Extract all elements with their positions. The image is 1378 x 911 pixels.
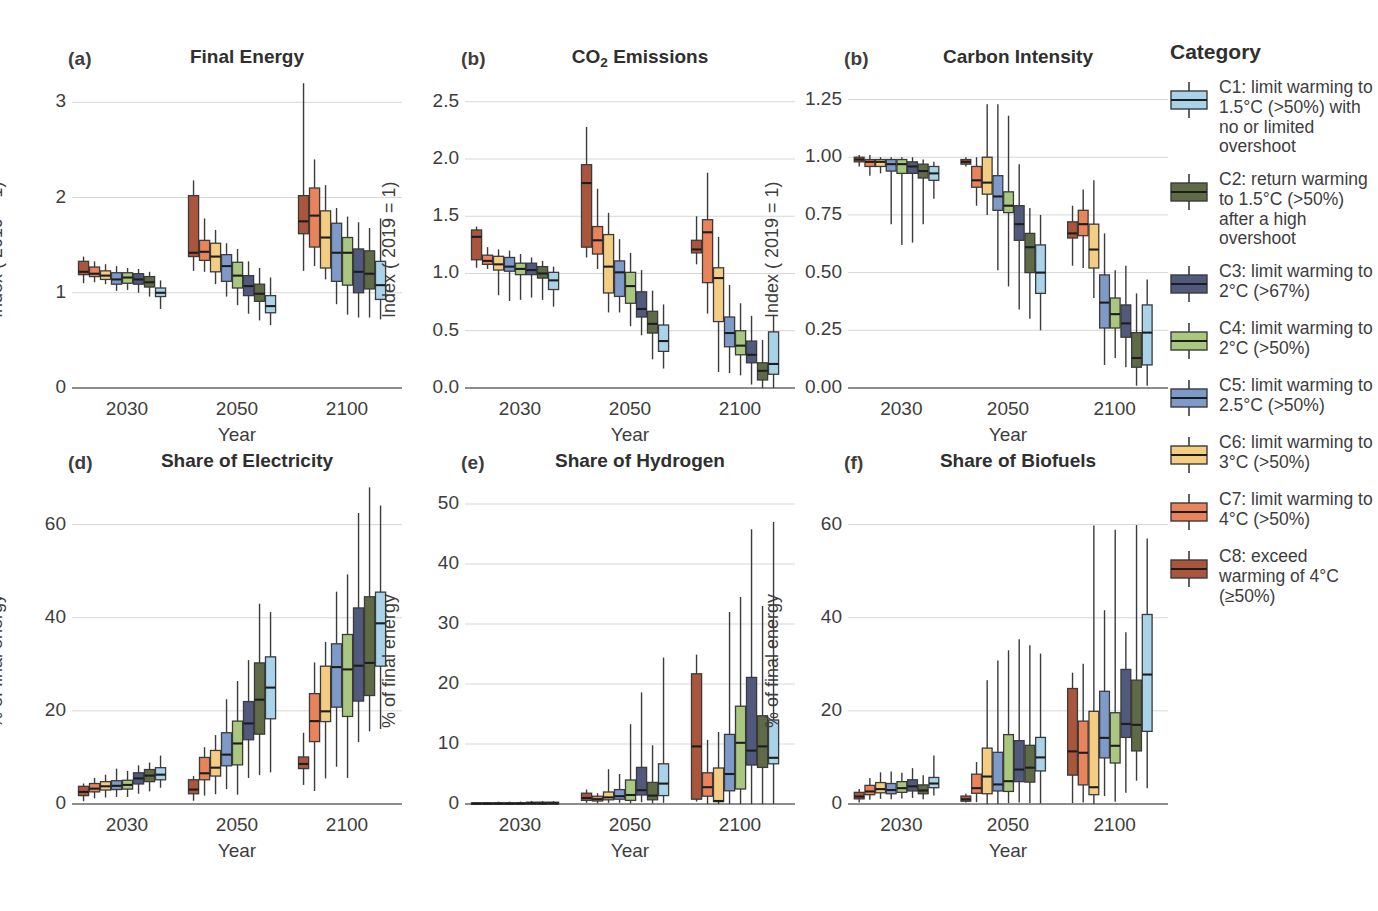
ytick-c-4: 1.00 bbox=[786, 145, 842, 167]
boxplot-b-2100-C6 bbox=[713, 237, 723, 372]
ytick-d-2: 40 bbox=[10, 606, 66, 628]
legend-label-c5: C5: limit warming to 2.5°C (>50%) bbox=[1219, 376, 1378, 416]
panel-tag-c: (b) bbox=[844, 48, 869, 70]
panel-f bbox=[848, 492, 1168, 804]
boxplot-e-2030-C1 bbox=[548, 801, 558, 804]
boxplot-f-2100-C4 bbox=[1110, 530, 1120, 802]
boxplot-f-2100-C1 bbox=[1142, 539, 1152, 789]
boxplot-d-2050-C8 bbox=[188, 776, 198, 801]
legend-item-c6[interactable]: C6: limit warming to 3°C (>50%) bbox=[1168, 433, 1378, 477]
legend-item-c1[interactable]: C1: limit warming to 1.5°C (>50%) with n… bbox=[1168, 78, 1378, 157]
legend-swatch-c4-icon bbox=[1168, 319, 1210, 363]
boxplot-c-2100-C6 bbox=[1089, 180, 1099, 298]
ytick-c-2: 0.50 bbox=[786, 261, 842, 283]
legend-item-c8[interactable]: C8: exceed warming of 4°C (≥50%) bbox=[1168, 547, 1378, 606]
boxplot-f-2030-C1 bbox=[929, 756, 939, 796]
panel-title-a: Final Energy bbox=[92, 46, 402, 68]
boxplot-b-2030-C6 bbox=[493, 249, 503, 295]
boxplot-c-2050-C2 bbox=[1025, 208, 1035, 319]
boxplot-c-2030-C8 bbox=[854, 155, 864, 167]
boxplot-d-2050-C5 bbox=[221, 699, 231, 789]
ytick-b-5: 2.5 bbox=[403, 90, 459, 112]
legend-item-c4[interactable]: C4: limit warming to 2°C (>50%) bbox=[1168, 319, 1378, 363]
ytick-e-3: 30 bbox=[403, 612, 459, 634]
boxplot-a-2050-C7 bbox=[199, 218, 209, 271]
panel-tag-e: (e) bbox=[461, 452, 485, 474]
boxplot-f-2030-C4 bbox=[897, 773, 907, 799]
legend-label-c2: C2: return warming to 1.5°C (>50%) after… bbox=[1219, 170, 1378, 249]
boxplot-a-2050-C4 bbox=[232, 249, 242, 305]
boxplot-a-2050-C8 bbox=[188, 180, 198, 270]
boxplot-e-2030-C5 bbox=[504, 802, 514, 805]
boxplot-b-2050-C3 bbox=[636, 270, 646, 335]
boxplot-a-2100-C5 bbox=[331, 208, 341, 304]
legend-item-c2[interactable]: C2: return warming to 1.5°C (>50%) after… bbox=[1168, 170, 1378, 249]
boxplot-e-2030-C3 bbox=[526, 801, 536, 804]
panel-c bbox=[848, 88, 1168, 388]
ytick-d-1: 20 bbox=[10, 699, 66, 721]
boxplot-a-2050-C1 bbox=[265, 278, 275, 326]
boxplot-b-2100-C4 bbox=[735, 303, 745, 375]
xtick-e-2030: 2030 bbox=[460, 814, 580, 836]
boxplot-b-2030-C4 bbox=[515, 254, 525, 300]
ylabel-f: % of final energy bbox=[762, 594, 783, 728]
boxplot-c-2050-C7 bbox=[972, 157, 982, 205]
boxplot-d-2100-C3 bbox=[353, 513, 363, 742]
panel-tag-f: (f) bbox=[844, 452, 864, 474]
boxplot-f-2100-C6 bbox=[1089, 526, 1099, 804]
legend-label-c4: C4: limit warming to 2°C (>50%) bbox=[1219, 319, 1378, 359]
boxplot-a-2030-C4 bbox=[122, 268, 132, 290]
boxplot-b-2030-C5 bbox=[504, 251, 514, 301]
boxplot-f-2030-C2 bbox=[918, 775, 928, 799]
boxplot-c-2050-C1 bbox=[1036, 215, 1046, 330]
legend-swatch-c8-icon bbox=[1168, 547, 1210, 591]
boxplot-a-2100-C7 bbox=[309, 159, 319, 266]
boxplot-f-2050-C6 bbox=[982, 680, 992, 804]
boxplot-a-2030-C6 bbox=[100, 264, 110, 284]
boxplot-f-2050-C1 bbox=[1036, 654, 1046, 804]
boxplot-e-2100-C6 bbox=[713, 732, 723, 804]
ytick-d-3: 60 bbox=[10, 513, 66, 535]
boxplot-e-2050-C1 bbox=[658, 658, 668, 803]
ytick-b-4: 2.0 bbox=[403, 147, 459, 169]
xlabel-f: Year bbox=[848, 840, 1168, 862]
boxplot-e-2050-C3 bbox=[636, 692, 646, 802]
boxplot-c-2030-C1 bbox=[929, 162, 939, 199]
boxplot-d-2030-C6 bbox=[100, 775, 110, 798]
xtick-b-2050: 2050 bbox=[570, 398, 690, 420]
panel-b bbox=[465, 88, 795, 388]
boxplot-d-2030-C8 bbox=[78, 784, 88, 802]
boxplot-c-2050-C4 bbox=[1004, 116, 1014, 287]
boxplot-a-2030-C8 bbox=[78, 257, 88, 284]
panel-tag-d: (d) bbox=[68, 452, 93, 474]
legend-label-c6: C6: limit warming to 3°C (>50%) bbox=[1219, 433, 1378, 473]
legend-item-c5[interactable]: C5: limit warming to 2.5°C (>50%) bbox=[1168, 376, 1378, 420]
boxplot-d-2030-C7 bbox=[89, 778, 99, 798]
boxplot-f-2030-C5 bbox=[886, 771, 896, 799]
boxplot-e-2050-C2 bbox=[647, 745, 657, 803]
boxplot-e-2030-C6 bbox=[493, 802, 503, 805]
panel-a bbox=[72, 88, 402, 388]
ytick-f-1: 20 bbox=[786, 699, 842, 721]
legend-item-c3[interactable]: C3: limit warming to 2°C (>67%) bbox=[1168, 262, 1378, 306]
boxplot-c-2100-C1 bbox=[1142, 280, 1152, 386]
ytick-d-0: 0 bbox=[10, 792, 66, 814]
boxplot-c-2100-C5 bbox=[1100, 233, 1110, 365]
boxplot-d-2100-C8 bbox=[298, 733, 308, 785]
boxplot-f-2030-C7 bbox=[865, 778, 875, 800]
boxplot-b-2050-C6 bbox=[603, 213, 613, 313]
ylabel-e: % of final energy bbox=[379, 594, 400, 728]
ylabel-c: Index ( 2019 = 1) bbox=[762, 181, 783, 318]
plot-area-e bbox=[465, 492, 795, 804]
boxplot-d-2030-C1 bbox=[155, 756, 165, 788]
legend-title: Category bbox=[1170, 40, 1378, 64]
ytick-b-0: 0.0 bbox=[403, 376, 459, 398]
boxplot-d-2030-C2 bbox=[144, 763, 154, 792]
boxplot-a-2100-C3 bbox=[353, 222, 363, 317]
boxplot-e-2050-C8 bbox=[581, 790, 591, 803]
boxplot-d-2050-C1 bbox=[265, 612, 275, 772]
boxplot-d-2050-C2 bbox=[254, 604, 264, 775]
boxplot-c-2100-C3 bbox=[1121, 266, 1131, 368]
boxplot-b-2100-C3 bbox=[746, 316, 756, 385]
legend-item-c7[interactable]: C7: limit warming to 4°C (>50%) bbox=[1168, 490, 1378, 534]
